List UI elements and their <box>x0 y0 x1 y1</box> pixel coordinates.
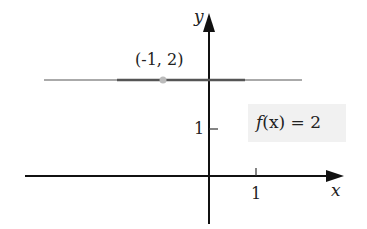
y-axis-arrow-icon <box>203 13 215 32</box>
y-axis-label: y <box>194 6 204 26</box>
function-label: f(x) = 2 <box>256 112 321 132</box>
graph-figure: y x (-1, 2) 1 1 f(x) = 2 <box>0 0 367 229</box>
function-expression: (x) = 2 <box>262 112 321 132</box>
x-tick-label: 1 <box>251 184 261 203</box>
point-label: (-1, 2) <box>135 50 183 69</box>
point-marker <box>160 77 167 84</box>
x-axis-label: x <box>331 180 341 200</box>
y-tick-label: 1 <box>194 119 204 138</box>
